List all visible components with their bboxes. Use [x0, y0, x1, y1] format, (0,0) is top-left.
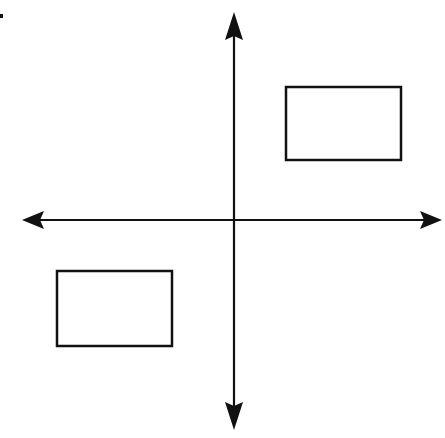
- x-axis: [22, 211, 442, 229]
- rectangle-quadrant-3: [57, 271, 172, 346]
- coordinate-diagram: [0, 0, 445, 438]
- corner-mark: [0, 14, 3, 18]
- rectangle-quadrant-1: [286, 87, 401, 160]
- arrow-up-icon: [225, 12, 243, 40]
- arrow-down-icon: [225, 402, 243, 430]
